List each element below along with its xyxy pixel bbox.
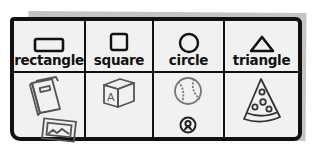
- triangle-icon: [248, 34, 276, 54]
- shapes-grid: rectangle square circle triangle: [14, 21, 298, 137]
- pizza-slice-icon: [240, 75, 288, 135]
- circle-icon: [177, 32, 201, 54]
- column-label: square: [94, 54, 144, 68]
- rectangle-icon: [33, 36, 65, 54]
- column-items-triangle: [225, 73, 298, 137]
- column-items-circle: [154, 73, 225, 137]
- baseball-icon: [170, 75, 210, 111]
- column-header-square: square: [86, 21, 154, 73]
- column-label: rectangle: [14, 54, 84, 68]
- letter-block-icon: A: [100, 75, 140, 115]
- square-icon: [108, 32, 130, 54]
- button-icon: [178, 115, 198, 135]
- picture-frame-icon: [40, 117, 80, 143]
- column-header-rectangle: rectangle: [14, 21, 86, 73]
- column-header-triangle: triangle: [225, 21, 298, 73]
- column-header-circle: circle: [154, 21, 225, 73]
- column-items-rectangle: [14, 73, 86, 137]
- column-items-square: A: [86, 73, 154, 137]
- svg-text:A: A: [107, 91, 115, 104]
- column-label: circle: [169, 54, 208, 68]
- column-label: triangle: [233, 54, 291, 68]
- shapes-chart-board: rectangle square circle triangle: [10, 17, 302, 141]
